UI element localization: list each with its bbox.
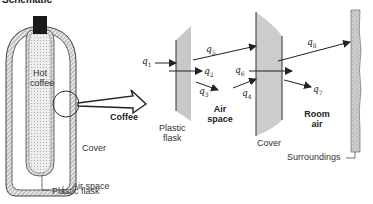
q2-label: q2	[204, 66, 214, 78]
room-air-label: Room air	[304, 109, 330, 129]
hot-coffee-label: Hot coffee	[30, 68, 50, 88]
coffee-label: Coffee	[110, 112, 138, 122]
schematic-diagram: Schematic	[0, 0, 373, 204]
flask-cover-label: Cover	[82, 143, 106, 153]
cover-wall	[256, 12, 282, 136]
q3-label: q3	[199, 86, 209, 98]
q1-label: q1	[142, 56, 152, 68]
q5-arrow	[193, 46, 256, 60]
stopper-icon	[33, 16, 47, 34]
plastic-flask-wall	[176, 26, 191, 121]
surroundings-wall	[351, 10, 361, 152]
air-space-label: Air space	[207, 104, 233, 124]
q4-label: q4	[242, 88, 252, 100]
zoom-arrow-icon	[78, 90, 146, 113]
q4-arrow	[233, 79, 256, 88]
q5-label: q5	[206, 44, 216, 56]
thermos-figure	[6, 16, 79, 196]
q8-label: q8	[307, 37, 317, 49]
cover-label: Cover	[257, 138, 281, 148]
q6-label: q6	[235, 65, 245, 77]
plastic-flask-label: Plastic flask	[159, 123, 186, 143]
q7-arrow	[284, 80, 311, 87]
surroundings-label: Surroundings	[287, 152, 341, 162]
flask-plastic-flask-label: Plastic flask	[52, 186, 100, 196]
diagram-graphics	[0, 0, 373, 204]
q7-label: q7	[313, 84, 323, 96]
